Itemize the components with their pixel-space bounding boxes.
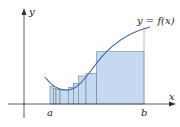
y-axis-label: y — [28, 6, 35, 17]
y-axis-arrow-icon — [22, 8, 27, 15]
riemann-rectangle — [53, 88, 56, 104]
riemann-rectangles — [50, 52, 144, 104]
riemann-rectangle — [56, 89, 60, 104]
curve-label: y = f(x) — [136, 15, 175, 26]
x-axis-label: x — [169, 91, 175, 102]
a-label: a — [47, 107, 53, 118]
riemann-rectangle — [97, 52, 144, 104]
x-axis-arrow-icon — [169, 102, 176, 107]
riemann-rectangle — [50, 86, 53, 104]
riemann-sum-diagram: y x y = f(x) a b — [0, 0, 180, 127]
riemann-rectangle — [78, 76, 86, 104]
riemann-rectangle — [60, 90, 68, 104]
riemann-rectangle — [86, 73, 97, 104]
b-label: b — [141, 107, 147, 118]
